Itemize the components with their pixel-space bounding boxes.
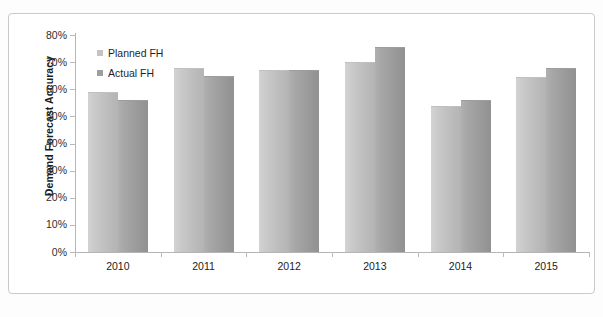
y-axis-tick-label: 60% [27,84,67,95]
y-axis-tick-label: 70% [27,57,67,68]
x-axis-tick-mark [332,252,333,257]
y-axis-tick-mark [70,171,75,172]
bar-planned-fh-2011[interactable] [174,68,204,252]
y-axis-tick-mark [70,116,75,117]
bar-actual-fh-2015[interactable] [546,68,576,252]
bar-actual-fh-2010[interactable] [118,100,148,252]
y-axis-tick-mark [70,89,75,90]
bar-actual-fh-2013[interactable] [375,47,405,252]
y-axis-tick-label: 20% [27,192,67,203]
bar-group-2011 [174,35,234,252]
y-axis-tick-mark [70,35,75,36]
bar-group-2015 [516,35,576,252]
y-axis-tick-label: 50% [27,111,67,122]
bar-planned-fh-2015[interactable] [516,77,546,252]
x-axis-label-2015: 2015 [501,260,591,272]
bar-actual-fh-2011[interactable] [204,76,234,252]
x-axis-label-2011: 2011 [159,260,249,272]
x-axis-tick-mark [75,252,76,257]
y-axis-tick-labels: 80%70%60%50%40%30%20%10%0% [21,14,67,295]
y-axis-tick-label: 0% [27,247,67,258]
x-axis-label-2014: 2014 [416,260,506,272]
bar-planned-fh-2010[interactable] [88,92,118,252]
x-axis-label-2010: 2010 [73,260,163,272]
x-axis-tick-mark [589,252,590,257]
bar-actual-fh-2012[interactable] [289,70,319,252]
bar-group-2013 [345,35,405,252]
y-axis-tick-label: 80% [27,30,67,41]
bar-actual-fh-2014[interactable] [461,100,491,252]
y-axis-tick-label: 30% [27,165,67,176]
x-axis-tick-mark [161,252,162,257]
y-axis-tick-mark [70,62,75,63]
y-axis-tick-label: 10% [27,219,67,230]
x-axis-label-2013: 2013 [330,260,420,272]
x-axis-label-2012: 2012 [244,260,334,272]
y-axis-tick-mark [70,252,75,253]
bar-group-2010 [88,35,148,252]
x-axis-tick-mark [503,252,504,257]
plot-area [75,35,589,252]
y-axis-tick-mark [70,225,75,226]
x-axis-tick-mark [418,252,419,257]
chart-page: Demand Forecast Accuracy 80%70%60%50%40%… [0,0,603,317]
y-axis-tick-mark [70,198,75,199]
y-axis-tick-mark [70,144,75,145]
bar-group-2014 [431,35,491,252]
bar-planned-fh-2013[interactable] [345,62,375,252]
bar-planned-fh-2012[interactable] [259,70,289,252]
bar-planned-fh-2014[interactable] [431,106,461,252]
x-axis-tick-mark [246,252,247,257]
chart-frame: Demand Forecast Accuracy 80%70%60%50%40%… [8,13,595,294]
y-axis-tick-label: 40% [27,138,67,149]
bar-group-2012 [259,35,319,252]
